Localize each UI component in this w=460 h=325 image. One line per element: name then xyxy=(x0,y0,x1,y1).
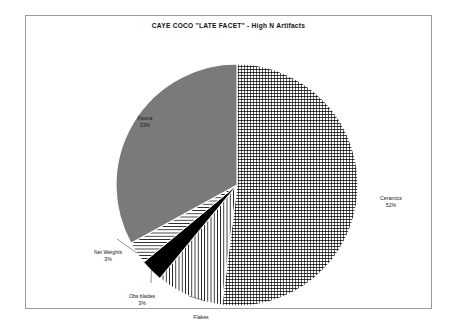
pie-label-obs-blades: Obs blades 3% xyxy=(113,293,171,307)
pie-label-fauna-pct: 33% xyxy=(120,122,170,129)
pie-label-obs-blades-name: Obs blades xyxy=(129,293,155,299)
pie-chart: Fauna 33% Ceramics 52% Net Weights 3% Ob… xyxy=(25,15,432,309)
pie-label-fauna: Fauna 33% xyxy=(120,115,170,129)
pie-label-ceramics-name: Ceramics xyxy=(380,195,402,201)
pie-slice-ceramics[interactable] xyxy=(222,64,358,306)
pie-label-net-weights-name: Net Weights xyxy=(94,249,122,255)
pie-label-ceramics: Ceramics 52% xyxy=(365,195,417,209)
pie-label-net-weights-pct: 3% xyxy=(77,256,139,263)
pie-label-fauna-name: Fauna xyxy=(138,115,153,121)
pie-chart-svg xyxy=(25,15,432,309)
pie-label-flakes-name: Flakes xyxy=(193,314,208,320)
pie-label-obs-blades-pct: 3% xyxy=(113,300,171,307)
pie-label-net-weights: Net Weights 3% xyxy=(77,249,139,263)
pie-label-flakes: Flakes xyxy=(175,314,227,321)
pie-slices xyxy=(116,64,358,306)
pie-label-ceramics-pct: 52% xyxy=(365,202,417,209)
